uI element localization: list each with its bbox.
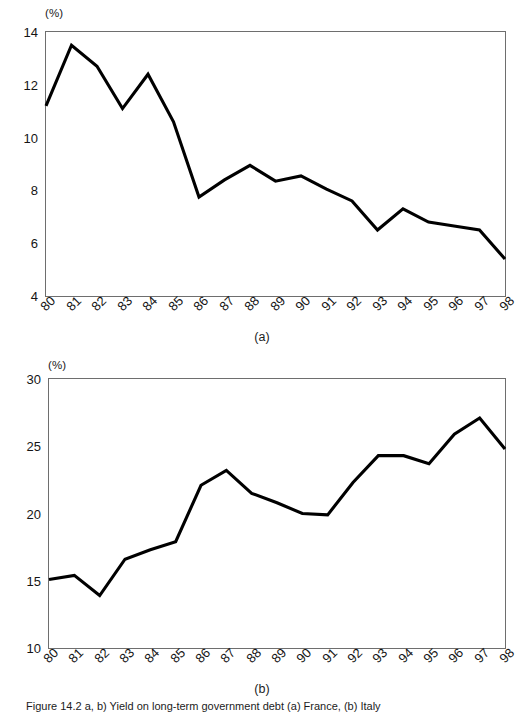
y-tick-label: 30 xyxy=(13,373,41,386)
y-tick-label: 10 xyxy=(10,132,38,145)
y-tick-label: 15 xyxy=(13,575,41,588)
panel-caption-a: (a) xyxy=(0,331,524,344)
y-tick-label: 8 xyxy=(10,184,38,197)
y-tick-label: 14 xyxy=(10,26,38,39)
chart-panel-b: (%) 1015202530 8081828384858687888990919… xyxy=(0,345,524,708)
plot-frame-a xyxy=(46,32,506,297)
y-tick-label: 20 xyxy=(13,508,41,521)
y-tick-label: 12 xyxy=(10,79,38,92)
plot-frame-b xyxy=(49,379,506,649)
panel-caption-b: (b) xyxy=(0,683,524,696)
chart-panel-a: (%) 468101214 80818283848586878889909192… xyxy=(0,0,524,345)
y-tick-label: 4 xyxy=(10,290,38,303)
y-tick-label: 25 xyxy=(13,440,41,453)
y-tick-label: 10 xyxy=(13,642,41,655)
y-tick-label: 6 xyxy=(10,237,38,250)
figure-caption: Figure 14.2 a, b) Yield on long-term gov… xyxy=(26,700,524,713)
chart-b-svg xyxy=(0,345,524,665)
chart-a-svg xyxy=(0,0,524,310)
